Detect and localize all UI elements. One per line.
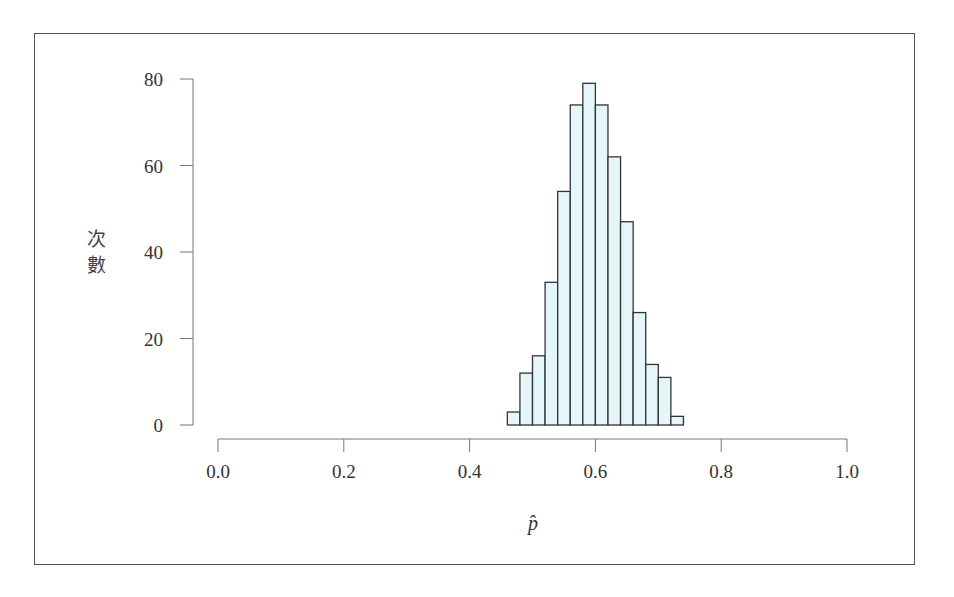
histogram-bar	[533, 356, 546, 425]
histogram-bar	[545, 282, 558, 425]
x-tick-label: 0.2	[332, 461, 356, 482]
x-axis-label: p̂	[526, 512, 538, 535]
histogram-bar	[583, 83, 596, 425]
histogram-bar	[633, 313, 646, 425]
histogram-chart: 020406080 0.00.20.40.60.81.0 p̂	[0, 0, 954, 597]
x-tick-label: 0.6	[584, 461, 608, 482]
histogram-bar	[520, 373, 533, 425]
histogram-bar	[671, 416, 684, 425]
histogram-bar	[558, 191, 571, 425]
histogram-bars	[507, 83, 683, 425]
histogram-bar	[658, 377, 671, 425]
y-tick-label: 60	[144, 156, 163, 177]
histogram-bar	[507, 412, 520, 425]
y-tick-label: 80	[144, 69, 163, 90]
y-axis: 020406080	[144, 69, 193, 436]
histogram-bar	[570, 105, 583, 425]
y-tick-label: 20	[144, 329, 163, 350]
histogram-bar	[646, 364, 659, 425]
x-tick-label: 0.8	[709, 461, 733, 482]
y-tick-label: 40	[144, 242, 163, 263]
y-tick-label: 0	[154, 415, 164, 436]
histogram-bar	[608, 157, 621, 425]
x-axis: 0.00.20.40.60.81.0	[206, 439, 859, 482]
x-tick-label: 0.4	[458, 461, 482, 482]
x-tick-label: 1.0	[835, 461, 859, 482]
histogram-bar	[595, 105, 608, 425]
histogram-bar	[621, 222, 634, 425]
x-tick-label: 0.0	[206, 461, 230, 482]
